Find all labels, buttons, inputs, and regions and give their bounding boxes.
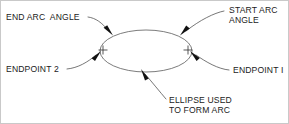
arrowhead-endpoint-2 bbox=[92, 51, 101, 61]
label-endpoint-1: ENDPOINT I bbox=[233, 65, 284, 75]
leader-end-arc-angle bbox=[88, 17, 113, 36]
leader-endpoint-1 bbox=[190, 51, 229, 70]
arc-ellipse-diagram: END ARC ANGLE START ARC ANGLE ENDPOINT 2… bbox=[0, 0, 289, 124]
arrowhead-start-arc-angle bbox=[180, 26, 190, 36]
arrowhead-ellipse-used bbox=[141, 69, 149, 81]
arrowhead-endpoint-1 bbox=[190, 51, 200, 61]
leader-ellipse-used bbox=[141, 69, 166, 99]
construction-ellipse bbox=[100, 30, 192, 72]
label-ellipse-used-line1: ELLIPSE USED bbox=[169, 95, 232, 105]
label-ellipse-used-line2: TO FORM ARC bbox=[169, 105, 230, 115]
label-end-arc-angle: END ARC ANGLE bbox=[6, 12, 80, 22]
label-endpoint-2: ENDPOINT 2 bbox=[6, 64, 59, 74]
leader-endpoint-2 bbox=[67, 51, 101, 69]
leader-start-arc-angle bbox=[180, 11, 224, 36]
diagram-canvas: END ARC ANGLE START ARC ANGLE ENDPOINT 2… bbox=[0, 0, 289, 124]
label-start-arc-angle-line1: START ARC bbox=[229, 5, 278, 15]
label-start-arc-angle-line2: ANGLE bbox=[229, 15, 259, 25]
